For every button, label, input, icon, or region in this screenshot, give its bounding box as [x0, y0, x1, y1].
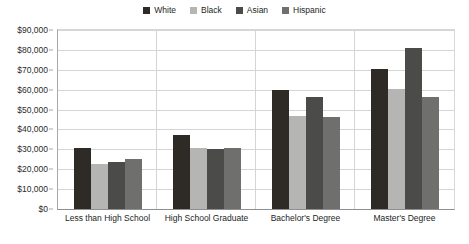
legend-entry-asian[interactable]: Asian: [236, 6, 268, 15]
chart-legend: WhiteBlackAsianHispanic: [0, 6, 469, 15]
bar-white[interactable]: [272, 90, 289, 209]
y-axis-tick-label: $0: [39, 204, 48, 214]
y-axis-tick-mark: [49, 49, 53, 50]
y-axis-tick-mark: [49, 30, 53, 31]
y-axis-tick-mark: [49, 89, 53, 90]
y-axis-tick-label: $90,000: [17, 25, 48, 35]
bar-group: [355, 30, 454, 209]
y-axis-tick-label: $10,000: [17, 184, 48, 194]
bar-hispanic[interactable]: [224, 148, 241, 209]
bar-black[interactable]: [388, 89, 405, 209]
bar-asian[interactable]: [405, 48, 422, 209]
bar-hispanic[interactable]: [323, 117, 340, 209]
y-axis-tick-mark: [49, 169, 53, 170]
y-axis-tick-mark: [49, 189, 53, 190]
y-axis-tick-label: $50,000: [17, 105, 48, 115]
legend-swatch-icon: [143, 7, 150, 14]
y-axis-tick-label: $70,000: [17, 65, 48, 75]
bar-black[interactable]: [289, 116, 306, 209]
bar-group: [157, 30, 256, 209]
legend-label: Asian: [247, 6, 268, 15]
bar-hispanic[interactable]: [125, 159, 142, 209]
x-axis-category-label: Less than High School: [58, 213, 157, 223]
legend-label: Hispanic: [293, 6, 326, 15]
x-axis-category-label: High School Graduate: [157, 213, 256, 223]
y-axis-tick-label: $20,000: [17, 164, 48, 174]
y-axis-tick-label: $30,000: [17, 144, 48, 154]
bar-black[interactable]: [91, 164, 108, 209]
legend-label: White: [154, 6, 176, 15]
bar-group: [58, 30, 157, 209]
y-axis-tick-label: $80,000: [17, 45, 48, 55]
bar-white[interactable]: [74, 148, 91, 209]
bar-white[interactable]: [173, 135, 190, 209]
y-axis-tick-mark: [49, 69, 53, 70]
y-axis-tick-mark: [49, 209, 53, 210]
bar-white[interactable]: [371, 69, 388, 209]
bar-chart: WhiteBlackAsianHispanic $0$10,000$20,000…: [0, 0, 469, 244]
y-axis-tick-mark: [49, 149, 53, 150]
legend-label: Black: [201, 6, 222, 15]
legend-swatch-icon: [282, 7, 289, 14]
bar-asian[interactable]: [108, 162, 125, 209]
bar-black[interactable]: [190, 148, 207, 209]
y-axis: $0$10,000$20,000$30,000$40,000$50,000$60…: [0, 29, 53, 210]
y-axis-tick-label: $40,000: [17, 124, 48, 134]
y-axis-tick-mark: [49, 129, 53, 130]
legend-swatch-icon: [236, 7, 243, 14]
bar-asian[interactable]: [306, 97, 323, 209]
legend-entry-black[interactable]: Black: [190, 6, 222, 15]
legend-entry-hispanic[interactable]: Hispanic: [282, 6, 326, 15]
bar-group: [256, 30, 355, 209]
x-axis-labels: Less than High SchoolHigh School Graduat…: [58, 213, 454, 223]
legend-swatch-icon: [190, 7, 197, 14]
y-axis-tick-mark: [49, 109, 53, 110]
x-axis-category-label: Master's Degree: [355, 213, 454, 223]
legend-entry-white[interactable]: White: [143, 6, 176, 15]
bar-asian[interactable]: [207, 149, 224, 209]
bar-groups: [58, 30, 454, 209]
x-axis-category-label: Bachelor's Degree: [256, 213, 355, 223]
y-axis-tick-label: $60,000: [17, 85, 48, 95]
bar-hispanic[interactable]: [422, 97, 439, 209]
